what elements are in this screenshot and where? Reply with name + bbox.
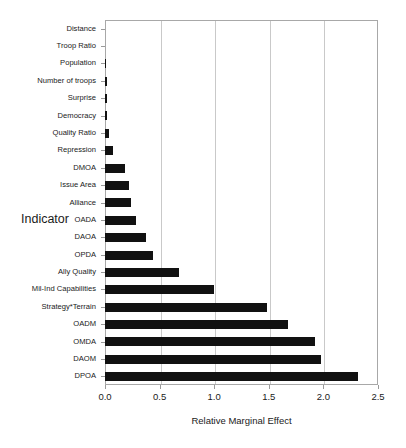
x-axis-tick-label: 1.0 xyxy=(194,391,234,402)
bar xyxy=(105,251,153,260)
bars-layer xyxy=(105,20,378,385)
y-axis-tick-mark xyxy=(101,289,105,290)
x-axis-title: Relative Marginal Effect xyxy=(105,415,378,426)
y-axis-tick-label: Troop Ratio xyxy=(0,42,101,50)
bar xyxy=(105,337,315,346)
y-axis-tick-mark xyxy=(101,237,105,238)
y-axis-tick-mark xyxy=(101,376,105,377)
y-axis-tick-label: Issue Area xyxy=(0,181,101,189)
y-axis-tick-label: OPDA xyxy=(0,251,101,259)
x-axis-tick-mark xyxy=(323,385,324,389)
x-axis-tick-label: 2.5 xyxy=(358,391,398,402)
bar xyxy=(105,320,288,329)
y-axis-tick-mark xyxy=(101,359,105,360)
y-axis-tick-mark xyxy=(101,81,105,82)
y-axis-tick-label: Mil-Ind Capabilities xyxy=(0,285,101,293)
y-axis-tick-mark xyxy=(101,133,105,134)
y-axis-tick-mark xyxy=(101,255,105,256)
bar xyxy=(105,59,106,68)
x-axis-tick-mark xyxy=(269,385,270,389)
bar xyxy=(105,146,113,155)
bar xyxy=(105,355,321,364)
bar xyxy=(105,216,136,225)
bar xyxy=(105,94,107,103)
y-axis-tick-mark xyxy=(101,307,105,308)
y-axis-tick-label: Alliance xyxy=(0,199,101,207)
x-axis-tick-label: 1.5 xyxy=(249,391,289,402)
bar xyxy=(105,181,129,190)
y-axis-tick-label: Quality Ratio xyxy=(0,129,101,137)
y-axis-tick-mark xyxy=(101,324,105,325)
y-axis-tick-mark xyxy=(101,98,105,99)
y-axis-tick-label: OMDA xyxy=(0,338,101,346)
y-axis-tick-label: DAOM xyxy=(0,355,101,363)
bar xyxy=(105,303,267,312)
bar xyxy=(105,111,107,120)
bar xyxy=(105,285,214,294)
y-axis-tick-label: Repression xyxy=(0,146,101,154)
bar-chart: DistanceTroop RatioPopulationNumber of t… xyxy=(0,0,406,448)
y-axis-title: Indicator xyxy=(10,212,80,226)
bar xyxy=(105,129,109,138)
x-axis-tick-label: 2.0 xyxy=(303,391,343,402)
y-axis-tick-label: Strategy*Terrain xyxy=(0,303,101,311)
x-axis-tick-mark xyxy=(105,385,106,389)
y-axis-tick-mark xyxy=(101,63,105,64)
bar xyxy=(105,77,107,86)
y-axis-tick-mark xyxy=(101,342,105,343)
y-axis-tick-mark xyxy=(101,46,105,47)
y-axis-tick-label: Distance xyxy=(0,25,101,33)
bar xyxy=(105,233,146,242)
bar xyxy=(105,164,125,173)
x-axis-tick-mark xyxy=(378,385,379,389)
y-axis-labels: DistanceTroop RatioPopulationNumber of t… xyxy=(0,20,101,385)
x-axis-tick-mark xyxy=(214,385,215,389)
y-axis-tick-label: DPOA xyxy=(0,372,101,380)
y-axis-tick-label: Democracy xyxy=(0,112,101,120)
y-axis-tick-label: OADM xyxy=(0,320,101,328)
y-axis-tick-mark xyxy=(101,116,105,117)
y-axis-tick-mark xyxy=(101,168,105,169)
y-axis-tick-mark xyxy=(101,272,105,273)
y-axis-tick-mark xyxy=(101,29,105,30)
y-axis-tick-mark xyxy=(101,203,105,204)
bar xyxy=(105,198,131,207)
bar xyxy=(105,268,179,277)
x-axis-tick-label: 0.0 xyxy=(85,391,125,402)
y-axis-tick-label: Population xyxy=(0,59,101,67)
y-axis-tick-label: DMOA xyxy=(0,164,101,172)
y-axis-tick-label: DAOA xyxy=(0,233,101,241)
x-axis-tick-mark xyxy=(160,385,161,389)
y-axis-tick-mark xyxy=(101,220,105,221)
y-axis-tick-label: Number of troops xyxy=(0,77,101,85)
y-axis-tick-mark xyxy=(101,185,105,186)
y-axis-tick-label: Ally Quality xyxy=(0,268,101,276)
y-axis-tick-label: Surprise xyxy=(0,94,101,102)
x-axis-tick-label: 0.5 xyxy=(140,391,180,402)
bar xyxy=(105,372,358,381)
y-axis-tick-mark xyxy=(101,150,105,151)
